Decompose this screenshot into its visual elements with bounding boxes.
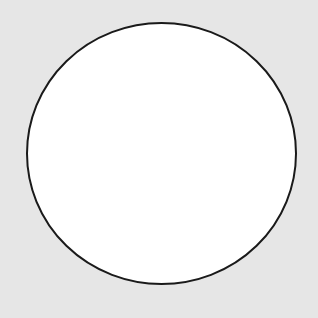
circle-shape <box>27 23 296 284</box>
drawing-canvas <box>0 0 318 318</box>
diagram-svg <box>0 0 318 318</box>
